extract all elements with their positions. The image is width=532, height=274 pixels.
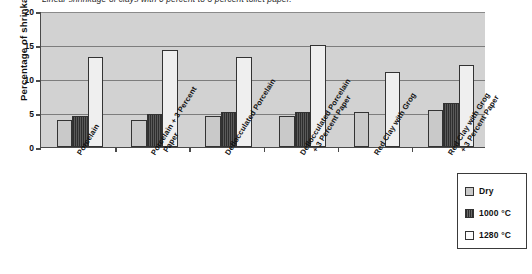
y-axis-title: Percentage of shrinkage <box>18 0 29 119</box>
y-tick-15 <box>36 46 41 48</box>
gridline-10 <box>41 80 485 81</box>
y-tick-label-15: 15 <box>25 41 34 51</box>
y-tick-label-20: 20 <box>25 7 34 17</box>
chart-title: Linear shrinkage of clays with 0 percent… <box>42 0 362 4</box>
gridline-15 <box>41 46 485 47</box>
bar <box>354 112 370 147</box>
y-tick-0 <box>36 148 41 150</box>
bar <box>205 116 221 147</box>
y-tick-label-0: 0 <box>29 143 34 153</box>
plot-top-border <box>41 12 485 13</box>
y-tick-label-5: 5 <box>29 109 34 119</box>
legend-swatch-dry <box>465 187 474 196</box>
legend-item-dry: Dry <box>465 180 526 202</box>
y-tick-label-10: 10 <box>25 75 34 85</box>
x-tick-2 <box>189 147 191 152</box>
x-tick-1 <box>115 147 117 152</box>
legend-label-dry: Dry <box>479 186 494 196</box>
legend-label-1000c: 1000 °C <box>479 208 511 218</box>
chart-legend: Dry 1000 °C 1280 °C <box>457 173 527 249</box>
bar <box>428 110 444 147</box>
bar <box>279 116 295 147</box>
legend-swatch-1280c <box>465 231 474 240</box>
legend-label-1280c: 1280 °C <box>479 230 511 240</box>
x-tick-3 <box>264 147 266 152</box>
y-tick-10 <box>36 80 41 82</box>
legend-item-1280c: 1280 °C <box>465 224 526 246</box>
legend-item-1000c: 1000 °C <box>465 202 526 224</box>
bar <box>57 120 73 147</box>
plot-area: 05101520 <box>40 12 485 148</box>
bar <box>131 120 147 147</box>
gridline-5 <box>41 114 485 115</box>
y-tick-5 <box>36 114 41 116</box>
y-tick-20 <box>36 12 41 14</box>
x-tick-5 <box>412 147 414 152</box>
legend-swatch-1000c <box>465 209 474 218</box>
x-tick-4 <box>338 147 340 152</box>
